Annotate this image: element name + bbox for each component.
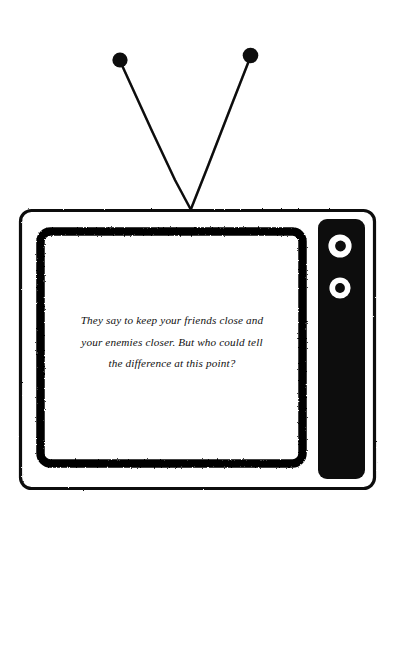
antenna-tip-left-icon: [112, 52, 127, 67]
tv-control-panel: [318, 219, 365, 479]
channel-knob[interactable]: [328, 234, 351, 257]
channel-knob-center: [335, 241, 346, 252]
volume-knob-center: [335, 283, 345, 293]
rabbit-ear-antenna: [112, 48, 258, 209]
illustration-canvas: They say to keep your friends close and …: [0, 0, 393, 651]
volume-knob[interactable]: [329, 277, 350, 298]
caption-line-1: They say to keep your friends close and: [56, 310, 288, 332]
caption-line-2: your enemies closer. But who could tell: [56, 332, 288, 354]
antenna-rod-left: [121, 62, 191, 209]
tv-screen-caption: They say to keep your friends close and …: [56, 310, 288, 375]
caption-line-3: the difference at this point?: [56, 353, 288, 375]
tv-control-panel-face: [318, 219, 365, 479]
antenna-rod-right: [191, 58, 250, 209]
antenna-tip-right-icon: [243, 48, 259, 64]
